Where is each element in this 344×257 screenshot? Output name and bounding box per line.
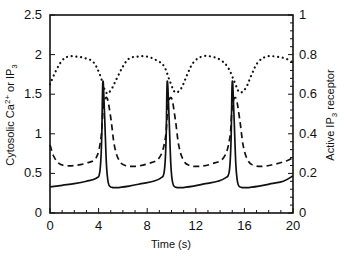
x-tick-label: 8 — [144, 218, 151, 233]
x-axis-ticks: 048121620 — [46, 208, 300, 233]
x-tick-label: 12 — [189, 218, 203, 233]
x-axis-title: Time (s) — [151, 238, 191, 250]
left-y-tick-label: 2.5 — [24, 7, 42, 22]
line-chart: 048121620 00.511.522.5 00.20.40.60.81 Ti… — [0, 0, 344, 257]
left-y-tick-label: 1.5 — [24, 86, 42, 101]
left-y-tick-label: 0 — [35, 205, 42, 220]
series-dashed-line — [50, 97, 293, 166]
plot-frame — [50, 15, 293, 213]
x-tick-label: 4 — [95, 218, 102, 233]
right-y-axis-title: Active IP3 receptor — [324, 69, 339, 161]
series-dotted-line — [50, 56, 293, 94]
right-y-tick-label: 0.4 — [299, 126, 317, 141]
left-y-tick-label: 0.5 — [24, 165, 42, 180]
left-y-tick-label: 2 — [35, 47, 42, 62]
plot-border — [50, 15, 293, 213]
left-y-tick-label: 1 — [35, 126, 42, 141]
x-tick-label: 20 — [286, 218, 300, 233]
right-y-tick-label: 0.8 — [299, 47, 317, 62]
x-tick-label: 0 — [46, 218, 53, 233]
series-lines — [50, 56, 293, 188]
right-y-tick-label: 1 — [299, 7, 306, 22]
right-y-tick-label: 0.6 — [299, 86, 317, 101]
right-y-tick-label: 0.2 — [299, 165, 317, 180]
x-tick-label: 16 — [237, 218, 251, 233]
left-y-axis-title: Cytosolic Ca2+ or IP3 — [3, 64, 19, 166]
right-y-tick-label: 0 — [299, 205, 306, 220]
